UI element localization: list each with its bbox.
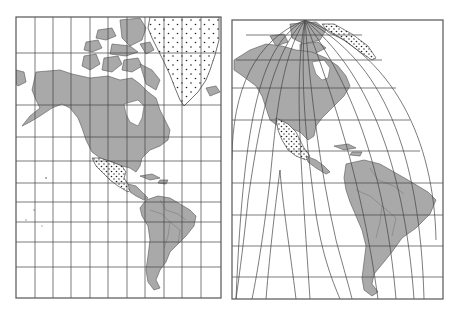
left-map bbox=[16, 17, 221, 298]
south-america-landmass bbox=[140, 196, 196, 290]
south-america-landmass bbox=[344, 160, 436, 296]
maps-canvas bbox=[0, 0, 461, 313]
greenland-dotted-region bbox=[322, 24, 376, 60]
right-map bbox=[232, 20, 443, 299]
